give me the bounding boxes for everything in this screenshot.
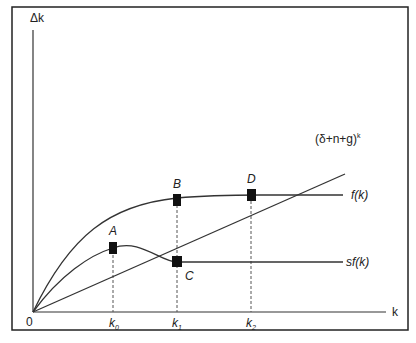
- origin-label: 0: [26, 315, 33, 329]
- label-B: B: [173, 177, 181, 191]
- f-label: f(k): [351, 188, 368, 202]
- y-axis-label: Δk: [30, 11, 45, 25]
- tick-k1: k1: [172, 316, 182, 331]
- point-A: [109, 242, 117, 254]
- depreciation-line: [33, 174, 345, 312]
- solow-diagram: Δk k 0 A B C D f(k) sf(k) (δ+n+g)k k0 k1…: [0, 0, 416, 343]
- tick-k0: k0: [109, 316, 119, 331]
- point-D: [247, 189, 256, 201]
- label-A: A: [108, 224, 117, 238]
- label-D: D: [247, 172, 256, 186]
- frame: [12, 7, 408, 330]
- f-curve: [33, 195, 343, 312]
- sf-label: sf(k): [346, 255, 369, 269]
- tick-k2: k2: [246, 316, 256, 331]
- label-C: C: [185, 269, 194, 283]
- point-C: [172, 256, 182, 267]
- point-B: [173, 194, 181, 206]
- x-axis-label: k: [392, 305, 399, 319]
- line-label: (δ+n+g)k: [315, 132, 361, 146]
